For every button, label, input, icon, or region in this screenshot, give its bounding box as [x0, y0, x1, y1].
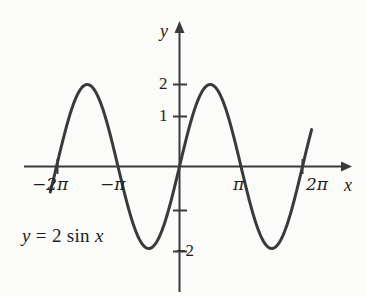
equation-annotation: y = 2 sin x [22, 226, 104, 245]
y-tick-label-minus-2: −2 [176, 242, 194, 259]
equation-y: y [22, 225, 31, 246]
equation-function: sin [67, 225, 90, 246]
graph-figure: 2 1 −2 −2π −π π 2π x y y = 2 sin x [0, 0, 366, 296]
x-axis-arrowhead [341, 162, 352, 172]
x-tick-label-pi: π [233, 176, 244, 193]
equation-variable: x [95, 225, 104, 246]
x-tick-label-minus-2pi: −2π [32, 176, 68, 193]
y-tick-label-1: 1 [159, 107, 168, 124]
x-tick-label-minus-pi: −π [100, 176, 125, 193]
y-axis-label: y [160, 22, 168, 40]
y-axis-arrowhead [175, 21, 185, 33]
equation-equals: = [36, 225, 47, 246]
y-tick-label-2: 2 [159, 75, 168, 92]
x-axis-label: x [344, 176, 352, 194]
equation-coefficient: 2 [52, 225, 62, 246]
x-tick-label-2pi: 2π [306, 176, 328, 193]
